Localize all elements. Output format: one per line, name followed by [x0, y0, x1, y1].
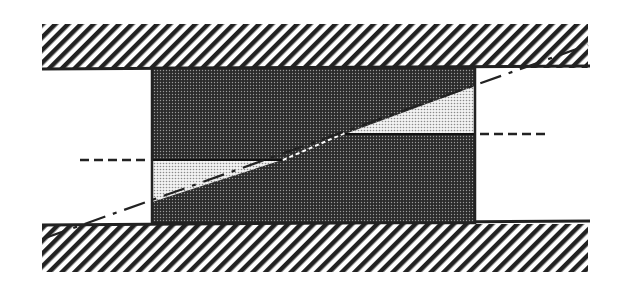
block — [152, 68, 475, 223]
top-plate — [42, 24, 590, 69]
diagram-canvas — [0, 0, 623, 292]
bottom-plate — [42, 221, 590, 272]
